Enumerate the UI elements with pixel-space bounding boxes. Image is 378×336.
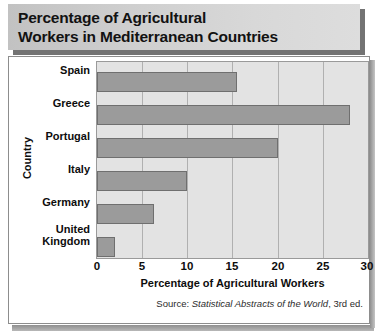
- y-axis-label-greece: Greece: [10, 97, 96, 109]
- x-axis-tick-labels: 0 5 10 15 20 25 30: [96, 260, 369, 276]
- bar-row-portugal: [97, 131, 278, 164]
- x-tick-5: 5: [139, 260, 145, 272]
- source-work: Statistical Abstracts of the World: [192, 298, 328, 309]
- x-axis-title: Percentage of Agricultural Workers: [96, 277, 369, 289]
- chart-title-banner: Percentage of Agricultural Workers in Me…: [8, 4, 360, 50]
- x-tick-20: 20: [272, 260, 285, 272]
- source-suffix: , 3rd ed.: [328, 298, 363, 309]
- bar-row-germany: [97, 197, 154, 230]
- bar-portugal[interactable]: [97, 138, 278, 158]
- y-axis-label-germany: Germany: [10, 196, 96, 208]
- x-tick-15: 15: [226, 260, 239, 272]
- plot-area: [96, 61, 369, 259]
- bar-greece[interactable]: [97, 105, 350, 125]
- bar-row-greece: [97, 98, 350, 131]
- bar-italy[interactable]: [97, 171, 187, 191]
- y-axis-label-portugal: Portugal: [10, 130, 96, 142]
- bar-row-spain: [97, 65, 237, 98]
- x-tick-10: 10: [181, 260, 194, 272]
- page-title: Percentage of Agricultural Workers in Me…: [18, 8, 360, 46]
- gridline-20: [278, 62, 279, 258]
- y-axis-label-italy: Italy: [10, 163, 96, 175]
- bar-row-united-kingdom: [97, 230, 115, 263]
- y-axis-tick-labels: Spain Greece Portugal Italy Germany Unit…: [9, 61, 96, 259]
- source-note: Source: Statistical Abstracts of the Wor…: [156, 298, 363, 309]
- figure-shadow-bottom: [12, 325, 374, 331]
- bar-germany[interactable]: [97, 204, 154, 224]
- chart-figure: Country Spain Greece Portugal Italy Germ…: [8, 56, 370, 324]
- y-axis-label-spain: Spain: [10, 64, 96, 76]
- bar-row-italy: [97, 164, 187, 197]
- bar-spain[interactable]: [97, 72, 237, 92]
- x-tick-30: 30: [361, 260, 374, 272]
- gridline-25: [323, 62, 324, 258]
- x-tick-0: 0: [94, 260, 100, 272]
- x-tick-25: 25: [317, 260, 330, 272]
- bar-united-kingdom[interactable]: [97, 237, 115, 257]
- y-axis-label-united-kingdom: United Kingdom: [10, 223, 96, 247]
- source-prefix: Source:: [156, 298, 191, 309]
- bar-chart: Country Spain Greece Portugal Italy Germ…: [9, 57, 371, 325]
